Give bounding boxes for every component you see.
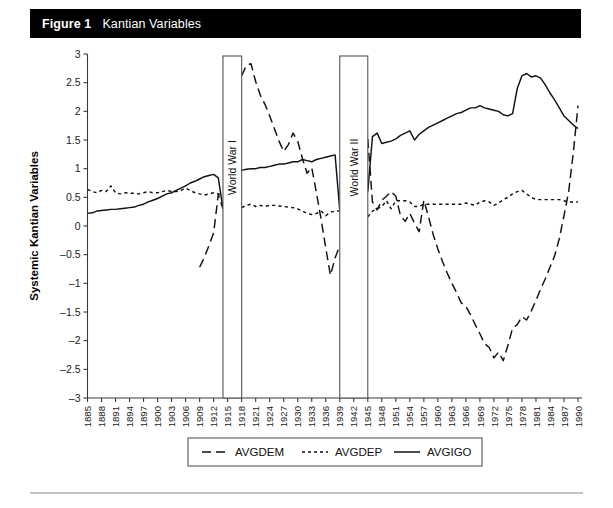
x-tick-label: 1957 xyxy=(418,406,429,427)
world-war-1-box xyxy=(223,56,242,398)
world-war-1-annotation: World War I xyxy=(223,56,242,398)
y-axis-title: Systemic Kantian Variables xyxy=(28,151,40,301)
y-tick-label: –2 xyxy=(69,334,81,346)
y-tick-label: 2.5 xyxy=(66,76,81,88)
series-path xyxy=(368,73,578,191)
x-tick-label: 1906 xyxy=(180,406,191,427)
x-tick-label: 1897 xyxy=(138,406,149,427)
x-tick-label: 1963 xyxy=(446,406,457,427)
x-tick-label: 1939 xyxy=(334,406,345,427)
series-path xyxy=(242,204,340,215)
x-tick-label: 1912 xyxy=(208,406,219,427)
x-tick-label: 1924 xyxy=(264,405,275,427)
x-tick-label: 1978 xyxy=(517,406,528,427)
x-tick-label: 1945 xyxy=(362,406,373,427)
x-tick-label: 1891 xyxy=(110,406,121,427)
x-tick-label: 1960 xyxy=(432,406,443,427)
x-tick-label: 1888 xyxy=(96,406,107,427)
x-tick-label: 1936 xyxy=(320,406,331,427)
series-path xyxy=(242,155,340,210)
series-path xyxy=(88,174,223,213)
series-avgdem xyxy=(200,64,578,361)
x-tick-label: 1903 xyxy=(166,406,177,427)
y-tick-label: 1.5 xyxy=(66,134,81,146)
x-tick-label: 1930 xyxy=(292,406,303,427)
legend-label-avgigo: AVGIGO xyxy=(427,446,472,458)
x-tick-label: 1948 xyxy=(376,406,387,427)
y-tick-label: –3 xyxy=(69,392,81,404)
x-tick-label: 1909 xyxy=(194,406,205,427)
y-tick-label: 2 xyxy=(75,105,81,117)
x-tick-label: 1951 xyxy=(390,406,401,427)
kantian-variables-chart: 32.521.510.50–0.5–1–1.5–2–2.5–3 18851888… xyxy=(0,0,613,508)
y-tick-label: –0.5 xyxy=(60,248,81,260)
series-avgdep xyxy=(88,186,579,217)
world-war-2-label: World War II xyxy=(348,139,360,197)
y-tick-label: –1.5 xyxy=(60,306,81,318)
x-tick-label: 1990 xyxy=(573,406,584,427)
figure-container: Figure 1 Kantian Variables 32.521.510.50… xyxy=(0,0,613,508)
y-tick-label: –2.5 xyxy=(60,363,81,375)
y-tick-label: –1 xyxy=(69,277,81,289)
x-tick-label: 1966 xyxy=(460,406,471,427)
series-avgigo xyxy=(88,73,579,213)
chart-series-group xyxy=(88,64,579,361)
y-tick-label: 0.5 xyxy=(66,191,81,203)
series-path xyxy=(242,64,340,276)
legend-label-avgdem: AVGDEM xyxy=(235,446,284,458)
series-path xyxy=(88,186,223,195)
x-tick-label: 1885 xyxy=(82,406,93,427)
world-war-2-annotation: World War II xyxy=(340,56,368,398)
x-tick-label: 1900 xyxy=(152,406,163,427)
x-tick-label: 1894 xyxy=(124,405,135,427)
x-tick-label: 1984 xyxy=(545,405,556,427)
legend-label-avgdep: AVGDEP xyxy=(335,446,382,458)
world-war-2-box xyxy=(340,56,368,398)
x-tick-label: 1915 xyxy=(222,406,233,427)
x-tick-label: 1987 xyxy=(559,406,570,427)
x-tick-label: 1954 xyxy=(404,405,415,427)
x-tick-label: 1942 xyxy=(348,406,359,427)
x-tick-label: 1969 xyxy=(475,406,486,427)
y-axis-ticks: 32.521.510.50–0.5–1–1.5–2–2.5–3 xyxy=(60,48,87,404)
world-war-1-label: World War I xyxy=(226,140,238,195)
x-tick-label: 1981 xyxy=(531,406,542,427)
x-tick-label: 1972 xyxy=(489,406,500,427)
x-tick-label: 1918 xyxy=(236,406,247,427)
x-tick-label: 1921 xyxy=(250,406,261,427)
series-path xyxy=(200,194,223,267)
y-tick-label: 3 xyxy=(75,48,81,60)
y-tick-label: 1 xyxy=(75,162,81,174)
chart-legend: AVGDEMAVGDEPAVGIGO xyxy=(188,438,482,466)
y-tick-label: 0 xyxy=(75,220,81,232)
war-annotations: World War IWorld War II xyxy=(223,56,368,398)
x-tick-label: 1933 xyxy=(306,406,317,427)
x-axis-ticks: 1885188818911894189719001903190619091912… xyxy=(82,398,583,427)
x-tick-label: 1975 xyxy=(503,406,514,427)
series-path xyxy=(368,106,578,361)
x-tick-label: 1927 xyxy=(278,406,289,427)
